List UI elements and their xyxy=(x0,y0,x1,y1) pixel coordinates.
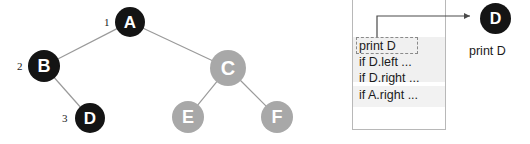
stack-code-line-2: if D.left ... xyxy=(359,55,412,69)
tree-node-b: B xyxy=(28,50,60,82)
output-arrow-head xyxy=(464,13,470,19)
tree-node-a: A xyxy=(115,7,145,37)
visit-order-marker-2: 2 xyxy=(17,60,23,72)
tree-edge-a-b xyxy=(57,28,117,59)
tree-edge-b-d xyxy=(54,77,81,107)
tree-node-d: D xyxy=(75,103,105,133)
tree-node-label-b: B xyxy=(38,57,51,75)
tree-node-label-e: E xyxy=(182,108,194,126)
tree-node-label-d: D xyxy=(84,110,96,127)
output-node-label: D xyxy=(490,11,502,27)
tree-node-label-c: C xyxy=(221,58,235,78)
tree-edge-c-e xyxy=(197,81,217,105)
diagram-canvas: ABCDEF 123 print Dif D.left ...if D.righ… xyxy=(0,0,530,144)
tree-edge-c-f xyxy=(240,80,266,106)
tree-node-c: C xyxy=(210,50,246,86)
visit-order-marker-3: 3 xyxy=(62,112,68,124)
tree-node-label-f: F xyxy=(272,108,283,126)
tree-edge-a-c xyxy=(143,28,213,61)
output-caption: print D xyxy=(469,44,506,58)
visit-order-marker-1: 1 xyxy=(104,16,110,28)
output-node-d: D xyxy=(480,3,511,34)
current-statement-highlight xyxy=(356,37,418,54)
stack-code-line-4: if A.right ... xyxy=(359,88,418,102)
tree-node-label-a: A xyxy=(124,14,136,31)
tree-node-e: E xyxy=(172,101,204,133)
stack-code-line-3: if D.right ... xyxy=(359,71,419,85)
tree-node-f: F xyxy=(261,101,293,133)
